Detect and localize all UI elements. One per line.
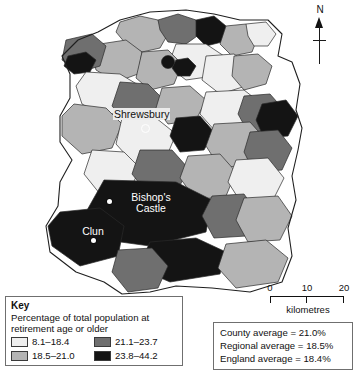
north-arrow-label: N (311, 4, 329, 15)
key-item-0: 8.1–18.4 (11, 336, 94, 347)
stat-england-average: England average = 18.4% (220, 352, 346, 365)
key-subtitle: Percentage of total population at retire… (11, 312, 177, 334)
place-label-bishops-castle-line2: Castle (121, 202, 181, 214)
key-item-3: 23.8–44.2 (94, 350, 177, 361)
key-swatch-1 (94, 337, 111, 347)
scale-tick-20 (343, 296, 344, 303)
key-range-label-0: 8.1–18.4 (32, 336, 69, 347)
map-page: N Shrewsbury Bishop's Castle Clun 0 10 2… (0, 0, 357, 375)
scale-tick-label-0: 0 (260, 282, 280, 293)
scale-unit-label: kilometres (268, 304, 348, 315)
stat-regional-average: Regional average = 18.5% (220, 339, 346, 352)
scale-tick-label-10: 10 (297, 282, 317, 293)
key-item-1: 21.1–23.7 (94, 336, 177, 347)
map-key: Key Percentage of total population at re… (5, 296, 183, 366)
place-marker-bishops-castle (107, 199, 112, 204)
ward-polygons (48, 14, 298, 292)
key-swatch-2 (11, 351, 28, 361)
ward-island-dark (162, 56, 175, 69)
key-range-label-2: 18.5–21.0 (32, 350, 75, 361)
place-label-shrewsbury: Shrewsbury (113, 108, 170, 120)
north-arrow-shaft (319, 22, 320, 64)
key-range-label-1: 21.1–23.7 (115, 336, 158, 347)
key-swatch-0 (11, 337, 28, 347)
key-item-2: 18.5–21.0 (11, 350, 94, 361)
stat-county-average: County average = 21.0% (220, 326, 346, 339)
north-arrow: N (311, 4, 345, 66)
place-label-clun: Clun (76, 225, 110, 237)
scale-tick-10 (306, 296, 307, 303)
place-marker-shrewsbury (141, 124, 150, 133)
key-legend-items: 8.1–18.421.1–23.718.5–21.023.8–44.2 (11, 336, 177, 364)
scale-tick-0 (270, 296, 271, 303)
place-marker-clun (91, 238, 96, 243)
north-arrow-crossbar (313, 40, 326, 41)
scale-tick-label-20: 20 (334, 282, 354, 293)
key-swatch-3 (94, 351, 111, 361)
key-range-label-3: 23.8–44.2 (115, 350, 158, 361)
scale-bar: 0 10 20 kilometres (268, 282, 352, 316)
averages-box: County average = 21.0% Regional average … (213, 322, 353, 370)
key-title: Key (11, 300, 177, 311)
